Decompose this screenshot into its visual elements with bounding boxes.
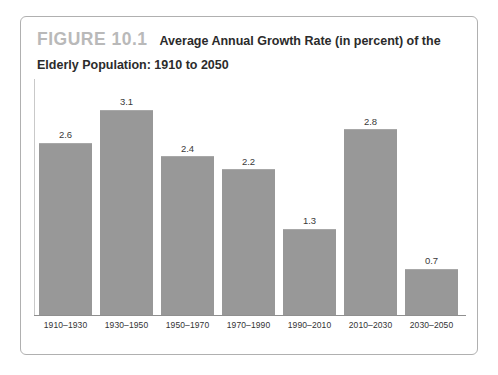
bar-slot: 1.3: [283, 79, 336, 315]
x-axis-tick-label: 1910–1930: [39, 320, 92, 330]
y-axis-line: [34, 79, 35, 315]
bar-value-label: 0.7: [405, 256, 458, 266]
chart-plot-area: 2.63.12.42.21.32.80.7: [34, 79, 466, 315]
figure-caption: FIGURE 10.1Average Annual Growth Rate (i…: [37, 27, 463, 76]
bar-slot: 2.4: [161, 79, 214, 315]
x-axis-line: [34, 315, 466, 316]
bar: [222, 169, 275, 315]
bar: [39, 143, 92, 315]
bar-value-label: 2.2: [222, 157, 275, 167]
bar-value-label: 1.3: [283, 216, 336, 226]
bar-value-label: 2.6: [39, 130, 92, 140]
bar: [344, 129, 397, 315]
x-axis-tick-label: 1990–2010: [283, 320, 336, 330]
figure-number-label: FIGURE 10.1: [37, 29, 148, 49]
bar-slot: 2.6: [39, 79, 92, 315]
bar: [405, 269, 458, 315]
bar: [283, 229, 336, 315]
x-axis-tick-labels: 1910–19301930–19501950–19701970–19901990…: [39, 320, 458, 330]
bar-series: 2.63.12.42.21.32.80.7: [39, 79, 458, 315]
bar-slot: 2.2: [222, 79, 275, 315]
figure-frame: FIGURE 10.1Average Annual Growth Rate (i…: [20, 16, 478, 355]
bar-slot: 2.8: [344, 79, 397, 315]
bar: [161, 156, 214, 315]
x-axis-tick-label: 1950–1970: [161, 320, 214, 330]
bar-value-label: 2.8: [344, 117, 397, 127]
bar-value-label: 2.4: [161, 144, 214, 154]
x-axis-tick-label: 1930–1950: [100, 320, 153, 330]
bar-slot: 0.7: [405, 79, 458, 315]
bar-slot: 3.1: [100, 79, 153, 315]
x-axis-tick-label: 1970–1990: [222, 320, 275, 330]
x-axis-tick-label: 2010–2030: [344, 320, 397, 330]
x-axis-tick-label: 2030–2050: [405, 320, 458, 330]
bar: [100, 110, 153, 315]
bar-value-label: 3.1: [100, 97, 153, 107]
